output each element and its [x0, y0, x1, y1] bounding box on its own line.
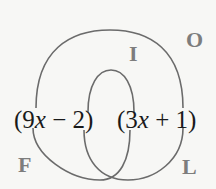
- label-last: L: [182, 154, 197, 179]
- right-factor: (3x + 1): [117, 106, 196, 134]
- outer-arc: [36, 30, 183, 108]
- first-arc: [33, 128, 130, 180]
- label-inner: I: [129, 41, 138, 66]
- label-first: F: [18, 152, 31, 177]
- foil-diagram: (9x − 2) (3x + 1) O I F L: [0, 0, 216, 189]
- label-outer: O: [186, 27, 203, 52]
- last-arc: [84, 128, 183, 180]
- left-factor: (9x − 2): [14, 106, 93, 134]
